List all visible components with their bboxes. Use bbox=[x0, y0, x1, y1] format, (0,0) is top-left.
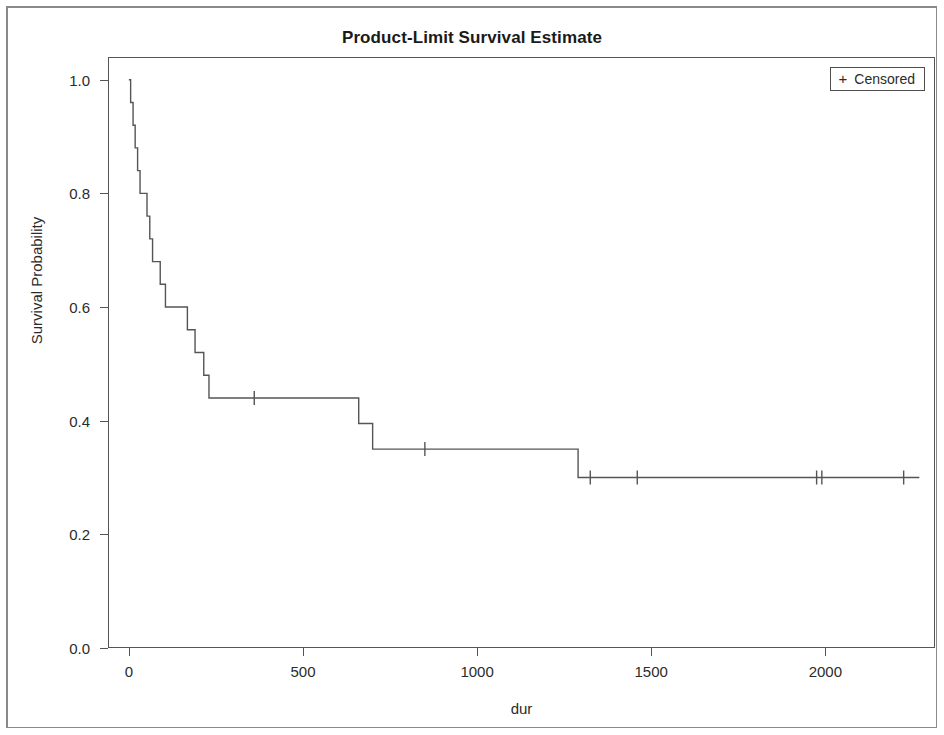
survival-step-line bbox=[129, 80, 919, 478]
x-tick-mark bbox=[477, 648, 478, 656]
chart-screenshot: Product-Limit Survival Estimate + Censor… bbox=[0, 0, 944, 735]
legend-label-censored: Censored bbox=[854, 72, 915, 86]
censored-plus-icon: + bbox=[839, 71, 848, 86]
x-tick-label: 0 bbox=[89, 663, 169, 680]
survival-curve-svg bbox=[108, 57, 935, 648]
x-tick-mark bbox=[825, 648, 826, 656]
y-tick-mark bbox=[100, 80, 108, 81]
x-tick-label: 2000 bbox=[785, 663, 865, 680]
x-tick-mark bbox=[129, 648, 130, 656]
x-tick-label: 500 bbox=[263, 663, 343, 680]
y-tick-mark bbox=[100, 421, 108, 422]
censored-marks-group bbox=[254, 391, 903, 485]
y-tick-label: 0.2 bbox=[30, 526, 90, 543]
y-tick-mark bbox=[100, 534, 108, 535]
y-tick-label: 1.0 bbox=[30, 71, 90, 88]
x-tick-label: 1000 bbox=[437, 663, 517, 680]
x-tick-mark bbox=[303, 648, 304, 656]
y-tick-mark bbox=[100, 193, 108, 194]
x-tick-label: 1500 bbox=[611, 663, 691, 680]
y-tick-label: 0.4 bbox=[30, 412, 90, 429]
y-tick-mark bbox=[100, 648, 108, 649]
y-axis-title: Survival Probability bbox=[28, 181, 45, 381]
x-axis-title: dur bbox=[108, 700, 935, 717]
x-tick-mark bbox=[651, 648, 652, 656]
plot-area: + Censored bbox=[108, 57, 935, 648]
legend: + Censored bbox=[830, 67, 925, 91]
page-title: Product-Limit Survival Estimate bbox=[0, 28, 944, 48]
y-tick-label: 0.0 bbox=[30, 640, 90, 657]
y-tick-mark bbox=[100, 307, 108, 308]
